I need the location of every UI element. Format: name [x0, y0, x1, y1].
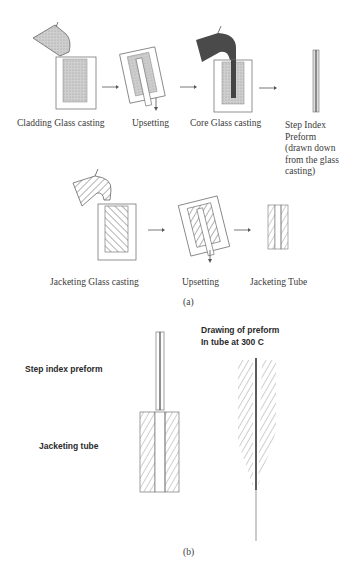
preform-rod-b — [156, 332, 164, 410]
step-index-preform-rod — [313, 50, 319, 112]
cladding-casting-figure — [33, 22, 96, 109]
core-casting-figure — [196, 26, 252, 112]
jacketing-tube-b — [140, 412, 179, 492]
label-jacketing-glass-casting: Jacketing Glass casting — [50, 277, 139, 289]
label-jacketing-tube-b: Jacketing tube — [39, 440, 99, 452]
label-step-index-preform: Step Index Preform (drawn down from the … — [285, 120, 339, 178]
caption-b: (b) — [183, 547, 194, 559]
upsetting-figure-1 — [120, 47, 167, 109]
jacketing-casting-figure — [73, 169, 136, 260]
label-upsetting-1: Upsetting — [132, 118, 169, 130]
jacketing-tube-figure — [268, 205, 288, 249]
upsetting-figure-2 — [178, 196, 230, 260]
label-jacketing-tube: Jacketing Tube — [250, 277, 307, 289]
label-upsetting-2: Upsetting — [182, 277, 219, 289]
label-step-index-preform-b: Step index preform — [25, 363, 102, 375]
label-core-glass-casting: Core Glass casting — [190, 118, 261, 130]
label-drawing-of-preform: Drawing of preform In tube at 300 C — [201, 324, 279, 348]
caption-a: (a) — [183, 297, 194, 309]
label-cladding-glass-casting: Cladding Glass casting — [17, 118, 105, 130]
drawing-preform-figure — [238, 358, 276, 541]
